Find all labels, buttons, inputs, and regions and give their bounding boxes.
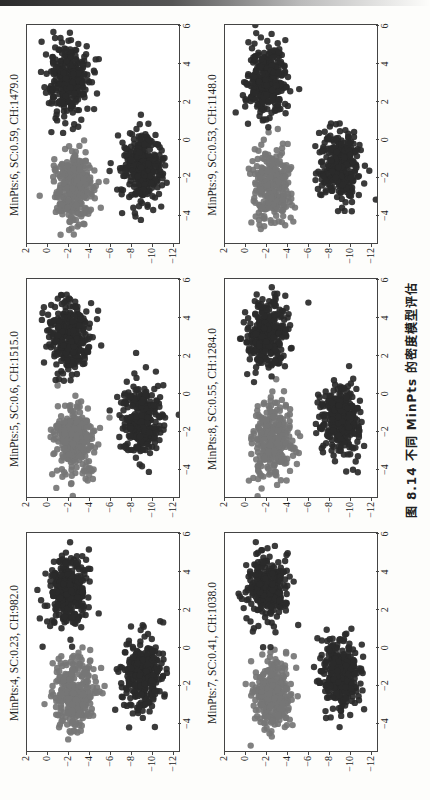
x-tick-label: −2 — [380, 166, 390, 190]
y-tick-label: 0 — [240, 756, 250, 778]
scatter-points — [225, 279, 377, 497]
y-tick-mark — [224, 244, 225, 247]
y-tick-mark — [329, 752, 330, 755]
y-tick-mark — [152, 244, 153, 247]
y-tick-label: −6 — [303, 756, 313, 778]
y-tick-label: −4 — [84, 248, 94, 270]
y-tick-label: 2 — [219, 502, 229, 524]
x-tick-label: −2 — [182, 166, 192, 190]
y-tick-label: −8 — [324, 502, 334, 524]
y-tick-mark — [173, 752, 174, 755]
x-tick-label: 0 — [380, 382, 390, 406]
y-tick-label: −10 — [147, 248, 157, 270]
y-tick-mark — [266, 752, 267, 755]
y-tick-label: −2 — [63, 502, 73, 524]
y-tick-label: 2 — [21, 502, 31, 524]
y-tick-mark — [287, 244, 288, 247]
scatter-points — [27, 533, 179, 751]
y-tick-label: −12 — [366, 248, 376, 270]
y-tick-mark — [26, 498, 27, 501]
x-tick-mark — [178, 63, 181, 64]
y-tick-mark — [287, 752, 288, 755]
y-tick-label: −10 — [147, 756, 157, 778]
x-tick-mark — [178, 469, 181, 470]
y-tick-mark — [371, 752, 372, 755]
x-tick-label: −2 — [182, 420, 192, 444]
x-tick-label: 4 — [380, 52, 390, 76]
y-tick-label: −4 — [282, 248, 292, 270]
scatter-panel: MinPts:4, SC:0.23, CH:982.020−2−4−6−8−10… — [4, 528, 204, 778]
y-tick-mark — [350, 244, 351, 247]
y-tick-mark — [131, 752, 132, 755]
y-tick-mark — [308, 498, 309, 501]
y-tick-label: −2 — [63, 756, 73, 778]
y-tick-mark — [152, 498, 153, 501]
x-tick-label: 0 — [380, 636, 390, 660]
y-tick-label: −4 — [282, 756, 292, 778]
y-tick-mark — [110, 752, 111, 755]
x-tick-label: 6 — [182, 522, 192, 546]
scatter-points — [27, 25, 179, 243]
y-tick-mark — [152, 752, 153, 755]
x-tick-mark — [376, 355, 379, 356]
y-tick-label: 0 — [42, 502, 52, 524]
panel-title: MinPts:9, SC:0.53, CH:1148.0 — [202, 20, 222, 270]
y-tick-mark — [68, 244, 69, 247]
y-tick-mark — [173, 498, 174, 501]
scatter-points — [225, 25, 377, 243]
y-tick-mark — [371, 244, 372, 247]
y-tick-label: −8 — [324, 248, 334, 270]
y-tick-label: −6 — [303, 502, 313, 524]
x-tick-mark — [376, 571, 379, 572]
y-tick-mark — [371, 498, 372, 501]
x-tick-label: −2 — [182, 674, 192, 698]
x-tick-mark — [178, 317, 181, 318]
x-tick-mark — [178, 215, 181, 216]
plot-area — [26, 278, 180, 498]
panel-title: MinPts:8, SC:0.55, CH:1284.0 — [202, 274, 222, 524]
y-tick-mark — [89, 752, 90, 755]
x-tick-label: 2 — [182, 598, 192, 622]
y-tick-label: 0 — [240, 248, 250, 270]
x-tick-mark — [178, 571, 181, 572]
y-tick-label: −12 — [168, 756, 178, 778]
x-tick-mark — [376, 101, 379, 102]
x-tick-label: 2 — [380, 344, 390, 368]
y-tick-label: −8 — [126, 502, 136, 524]
x-tick-mark — [178, 393, 181, 394]
x-tick-mark — [376, 25, 379, 26]
x-tick-label: 6 — [380, 268, 390, 292]
x-tick-mark — [178, 685, 181, 686]
x-tick-label: 0 — [380, 128, 390, 152]
y-tick-label: −12 — [366, 502, 376, 524]
y-tick-label: −6 — [105, 756, 115, 778]
y-tick-label: −10 — [147, 502, 157, 524]
y-tick-label: −10 — [345, 502, 355, 524]
x-tick-mark — [178, 647, 181, 648]
y-tick-label: −2 — [261, 756, 271, 778]
y-tick-label: −2 — [63, 248, 73, 270]
plot-area — [224, 532, 378, 752]
y-tick-label: −10 — [345, 756, 355, 778]
y-tick-mark — [26, 244, 27, 247]
y-tick-label: −12 — [366, 756, 376, 778]
x-tick-mark — [178, 533, 181, 534]
x-tick-mark — [376, 647, 379, 648]
y-tick-label: −8 — [126, 248, 136, 270]
y-tick-label: −6 — [105, 502, 115, 524]
x-tick-label: 4 — [380, 560, 390, 584]
x-tick-label: 4 — [182, 306, 192, 330]
x-tick-label: 2 — [380, 598, 390, 622]
plot-area — [224, 278, 378, 498]
x-tick-mark — [178, 177, 181, 178]
y-tick-label: −2 — [261, 248, 271, 270]
y-tick-label: −10 — [345, 248, 355, 270]
scatter-panel: MinPts:7, SC:0.41, CH:1038.020−2−4−6−8−1… — [202, 528, 402, 778]
y-tick-label: −4 — [84, 502, 94, 524]
x-tick-label: 2 — [182, 90, 192, 114]
y-tick-mark — [245, 244, 246, 247]
y-tick-mark — [329, 498, 330, 501]
x-tick-mark — [376, 393, 379, 394]
panel-title: MinPts:5, SC:0.6, CH:1515.0 — [4, 274, 24, 524]
x-tick-mark — [376, 279, 379, 280]
